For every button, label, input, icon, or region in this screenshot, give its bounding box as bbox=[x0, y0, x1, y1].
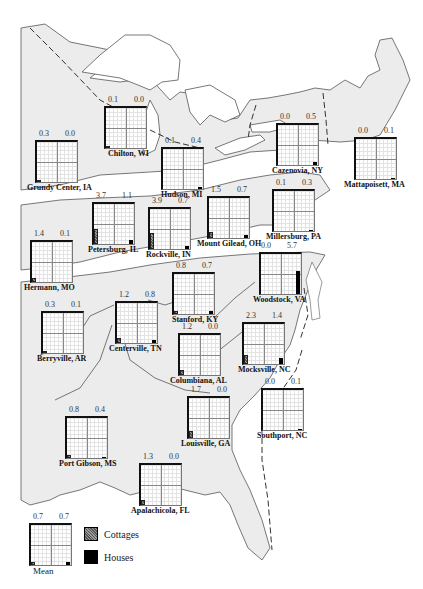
house-bar bbox=[279, 358, 283, 364]
house-bar bbox=[129, 240, 133, 244]
cottage-value: 0.1 bbox=[108, 95, 118, 104]
legend-item-cottages: Cottages bbox=[84, 527, 139, 541]
chart-box bbox=[242, 322, 285, 365]
house-value: 0.1 bbox=[71, 300, 81, 309]
cottage-value: 0.0 bbox=[358, 126, 368, 135]
chart-box bbox=[161, 147, 204, 190]
house-value: 0.1 bbox=[384, 126, 394, 135]
house-value: 0.0 bbox=[65, 129, 75, 138]
cottage-value: 1.2 bbox=[182, 322, 192, 331]
cottage-value: 0.7 bbox=[33, 512, 43, 521]
cottage-value: 0.8 bbox=[176, 261, 186, 270]
site-label: Grundy Center, IA bbox=[27, 183, 92, 192]
cottage-bar bbox=[106, 146, 110, 148]
house-value: 0.0 bbox=[208, 322, 218, 331]
house-value: 0.0 bbox=[134, 95, 144, 104]
house-value: 0.4 bbox=[95, 405, 105, 414]
cottage-bar bbox=[43, 351, 47, 353]
cottage-bar bbox=[94, 229, 98, 244]
legend-item-houses: Houses bbox=[84, 550, 139, 564]
chart-box bbox=[261, 388, 304, 431]
house-value: 0.7 bbox=[178, 196, 188, 205]
site-label: Mattapoisett, MA bbox=[344, 180, 405, 189]
chart-box bbox=[92, 202, 135, 245]
cottage-value: 0.0 bbox=[280, 112, 290, 121]
cottage-bar bbox=[150, 233, 154, 249]
house-value: 0.1 bbox=[60, 229, 70, 238]
house-bar bbox=[185, 246, 189, 249]
house-value: 0.7 bbox=[59, 512, 69, 521]
house-value: 0.8 bbox=[145, 290, 155, 299]
house-value: 0.3 bbox=[302, 178, 312, 187]
cottage-value: 0.1 bbox=[165, 136, 175, 145]
site-label: Columbiana, AL bbox=[170, 376, 227, 385]
cottage-bar bbox=[209, 232, 213, 238]
chart-box bbox=[178, 333, 221, 376]
site-label: Millersburg, PA bbox=[266, 232, 321, 241]
cottage-swatch-icon bbox=[84, 527, 98, 541]
site-label: Centerville, TN bbox=[109, 344, 162, 353]
house-value: 0.0 bbox=[169, 452, 179, 461]
cottage-value: 1.5 bbox=[211, 185, 221, 194]
house-bar bbox=[391, 178, 395, 179]
chart-box bbox=[259, 252, 302, 295]
legend-label: Cottages bbox=[104, 529, 139, 540]
cottage-value: 0.1 bbox=[276, 178, 286, 187]
chart-box bbox=[172, 272, 215, 315]
chart-box bbox=[115, 301, 158, 344]
house-bar bbox=[313, 162, 317, 165]
cottage-value: 1.7 bbox=[191, 385, 201, 394]
cottage-value: 0.3 bbox=[45, 300, 55, 309]
site-label: Cazenovia, NY bbox=[272, 166, 323, 175]
site-label: Louisville, GA bbox=[181, 439, 230, 448]
chart-box bbox=[187, 396, 230, 439]
cottage-value: 3.9 bbox=[152, 196, 162, 205]
cottage-bar bbox=[32, 278, 36, 282]
site-label: Southport, NC bbox=[257, 431, 307, 440]
chart-box bbox=[139, 463, 182, 506]
cottage-value: 3.7 bbox=[96, 191, 106, 200]
house-value: 0.5 bbox=[306, 112, 316, 121]
chart-box bbox=[65, 416, 108, 459]
cottage-value: 0.8 bbox=[69, 405, 79, 414]
chart-box bbox=[35, 140, 78, 183]
cottage-value: 2.3 bbox=[246, 311, 256, 320]
house-bar bbox=[298, 429, 302, 430]
cottage-value: 0.3 bbox=[39, 129, 49, 138]
chart-box bbox=[148, 207, 191, 250]
cottage-bar bbox=[141, 500, 145, 505]
house-bar bbox=[309, 230, 313, 231]
chart-box bbox=[276, 123, 319, 166]
house-swatch-icon bbox=[84, 550, 98, 564]
house-value: 0.4 bbox=[191, 136, 201, 145]
house-bar bbox=[102, 457, 106, 458]
chart-box bbox=[104, 106, 147, 149]
site-label: Woodstock, VA bbox=[253, 295, 305, 304]
cottage-bar bbox=[189, 431, 193, 438]
house-bar bbox=[198, 187, 202, 189]
chart-box bbox=[354, 137, 397, 180]
house-bar bbox=[244, 235, 248, 238]
site-label: Chilton, WI bbox=[108, 149, 149, 158]
site-label: Port Gibson, MS bbox=[59, 459, 117, 468]
chart-box bbox=[272, 189, 315, 232]
house-bar bbox=[209, 311, 213, 314]
site-label: Mount Gilead, OH bbox=[197, 239, 261, 248]
site-label: Apalachicola, FL bbox=[131, 506, 190, 515]
cottage-bar bbox=[180, 370, 184, 375]
house-bar bbox=[152, 340, 156, 343]
cottage-bar bbox=[244, 355, 248, 364]
site-label: Mocksville, NC bbox=[238, 365, 290, 374]
house-value: 1.4 bbox=[272, 311, 282, 320]
site-label: Berryville, AR bbox=[37, 354, 86, 363]
house-bar bbox=[66, 562, 70, 565]
cottage-bar bbox=[31, 562, 35, 565]
house-value: 0.7 bbox=[237, 185, 247, 194]
cottage-bar bbox=[67, 455, 71, 458]
house-value: 0.0 bbox=[217, 385, 227, 394]
cottage-bar bbox=[37, 180, 41, 182]
cottage-value: 1.2 bbox=[119, 290, 129, 299]
chart-box bbox=[29, 523, 72, 566]
cottage-value: 1.4 bbox=[34, 229, 44, 238]
house-bar bbox=[296, 271, 300, 294]
